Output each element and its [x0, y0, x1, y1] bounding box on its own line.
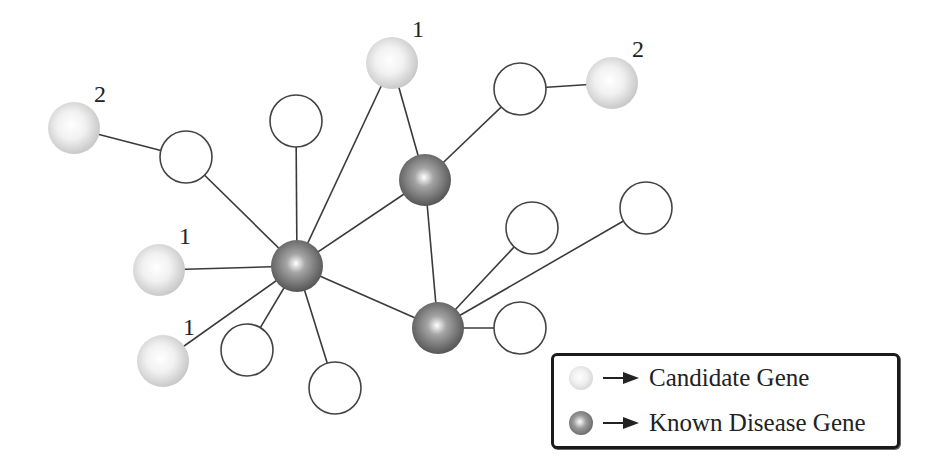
gene-node — [309, 362, 361, 414]
gene-node — [494, 302, 546, 354]
known-disease-gene-node — [399, 154, 451, 206]
legend-item-candidate: Candidate Gene — [554, 358, 809, 398]
node-rank-label: 1 — [179, 223, 191, 249]
known-disease-gene-node — [271, 240, 323, 292]
arrow-right-icon — [603, 417, 639, 429]
node-rank-label: 2 — [94, 81, 106, 107]
candidate-gene-node — [586, 57, 638, 109]
legend-item-disease: Known Disease Gene — [554, 403, 866, 443]
gene-node — [620, 182, 672, 234]
gene-node — [160, 131, 212, 183]
legend-box: Candidate Gene Known Disease Gene — [551, 353, 900, 449]
arrow-right-icon — [603, 372, 639, 384]
gene-node — [270, 95, 322, 147]
gene-node — [506, 202, 558, 254]
known-disease-gene-icon — [569, 411, 593, 435]
candidate-gene-node — [48, 102, 100, 154]
candidate-gene-node — [137, 335, 189, 387]
known-disease-gene-node — [412, 302, 464, 354]
legend-label-disease: Known Disease Gene — [649, 409, 866, 437]
network-edge — [297, 63, 392, 266]
candidate-gene-node — [366, 37, 418, 89]
gene-node — [221, 324, 273, 376]
legend-label-candidate: Candidate Gene — [649, 364, 809, 392]
candidate-gene-icon — [569, 366, 593, 390]
node-rank-label: 1 — [183, 314, 195, 340]
candidate-gene-node — [133, 244, 185, 296]
gene-node — [494, 63, 546, 115]
node-rank-label: 2 — [632, 36, 644, 62]
node-rank-label: 1 — [412, 16, 424, 42]
